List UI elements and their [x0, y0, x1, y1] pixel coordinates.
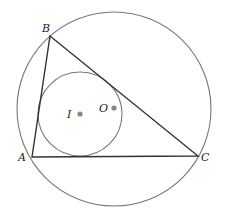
triangle-circles-diagram: A B C I O	[0, 0, 228, 216]
incenter-label: I	[66, 108, 72, 121]
circumcenter-label: O	[99, 102, 108, 115]
vertex-label-a: A	[17, 151, 26, 164]
circumcenter-point	[111, 105, 116, 110]
triangle-abc	[32, 36, 198, 157]
vertex-label-b: B	[41, 22, 50, 35]
vertex-label-c: C	[201, 151, 210, 164]
incenter-point	[77, 111, 82, 116]
